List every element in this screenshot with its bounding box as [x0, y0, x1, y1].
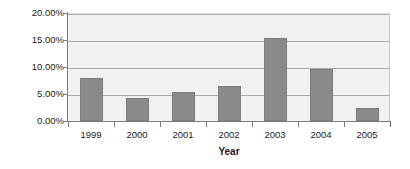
x-axis-tick-mark [114, 122, 115, 127]
gridline [68, 68, 389, 69]
gridline [68, 14, 389, 15]
bar [356, 108, 379, 122]
gridline [68, 41, 389, 42]
x-axis-tick-label: 2005 [344, 129, 390, 141]
x-axis-tick-mark [344, 122, 345, 127]
x-axis-tick-mark [206, 122, 207, 127]
bar [310, 69, 333, 121]
x-axis-tick-mark [160, 122, 161, 127]
y-axis-tick-labels: 0.00%5.00%10.00%15.00%20.00% [18, 13, 64, 121]
x-axis-tick-mark [68, 122, 69, 127]
y-axis-tick-mark [63, 67, 68, 68]
x-axis-tick-label: 2004 [298, 129, 344, 141]
y-axis-tick-mark [63, 40, 68, 41]
plot-area [68, 13, 390, 121]
x-axis-tick-label: 2002 [206, 129, 252, 141]
x-axis-tick-mark [298, 122, 299, 127]
x-axis-line [67, 121, 391, 122]
x-axis-tick-label: 2003 [252, 129, 298, 141]
y-axis-tick-label: 10.00% [18, 62, 64, 72]
y-axis-tick-mark [63, 13, 68, 14]
x-axis-title: Year [68, 146, 390, 158]
bar [80, 78, 103, 121]
x-axis-tick-mark [390, 122, 391, 127]
bar [172, 92, 195, 121]
y-axis-tick-label: 0.00% [18, 116, 64, 126]
x-axis-tick-label: 1999 [68, 129, 114, 141]
x-axis-tick-label: 2000 [114, 129, 160, 141]
y-axis-tick-mark [63, 94, 68, 95]
y-axis-tick-label: 5.00% [18, 89, 64, 99]
bar [126, 98, 149, 121]
y-axis-tick-label: 15.00% [18, 35, 64, 45]
x-axis-tick-label: 2001 [160, 129, 206, 141]
bar [264, 38, 287, 121]
y-axis-tick-label: 20.00% [18, 8, 64, 18]
x-axis-tick-mark [252, 122, 253, 127]
bar-chart: % Return 0.00%5.00%10.00%15.00%20.00% Ye… [0, 0, 410, 169]
bar [218, 86, 241, 121]
